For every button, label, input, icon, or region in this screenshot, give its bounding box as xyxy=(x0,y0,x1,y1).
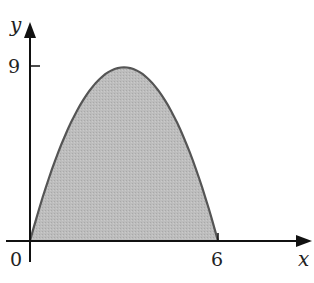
x-axis-label: x xyxy=(298,247,309,271)
x-axis-arrow-icon xyxy=(296,235,312,247)
y-axis-label: y xyxy=(9,13,22,37)
x-tick-label-6: 6 xyxy=(211,248,223,270)
chart-canvas: y 9 0 6 x xyxy=(0,0,314,283)
y-tick-label-9: 9 xyxy=(8,55,20,77)
y-axis-arrow-icon xyxy=(24,22,36,38)
origin-label: 0 xyxy=(10,248,22,270)
